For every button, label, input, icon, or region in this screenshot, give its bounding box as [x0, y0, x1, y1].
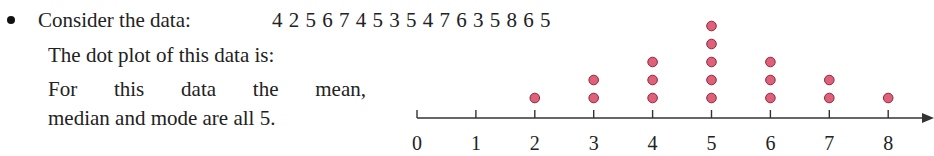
data-dot — [530, 93, 540, 103]
data-dot — [648, 57, 658, 67]
data-dot — [707, 57, 717, 67]
data-dot — [589, 93, 599, 103]
data-dot — [766, 75, 776, 85]
tick-label-7: 7 — [824, 132, 834, 154]
data-dot — [707, 75, 717, 85]
tick-label-1: 1 — [471, 132, 481, 154]
data-dot — [766, 57, 776, 67]
tick-label-6: 6 — [765, 132, 775, 154]
tick-label-5: 5 — [707, 132, 717, 154]
data-dot — [825, 93, 835, 103]
data-dot — [825, 75, 835, 85]
data-dot — [883, 93, 893, 103]
tick-label-2: 2 — [530, 132, 540, 154]
x-axis: 012345678 — [412, 110, 934, 154]
data-dot — [707, 93, 717, 103]
dot-plot: 012345678 — [0, 0, 934, 156]
data-dot — [648, 93, 658, 103]
data-dot — [648, 75, 658, 85]
data-dot — [707, 21, 717, 31]
dot-series — [530, 21, 893, 103]
tick-label-8: 8 — [883, 132, 893, 154]
axis-arrow-icon — [922, 113, 934, 123]
tick-label-0: 0 — [412, 132, 422, 154]
data-dot — [589, 75, 599, 85]
data-dot — [707, 39, 717, 49]
data-dot — [766, 93, 776, 103]
tick-label-4: 4 — [648, 132, 658, 154]
tick-label-3: 3 — [589, 132, 599, 154]
